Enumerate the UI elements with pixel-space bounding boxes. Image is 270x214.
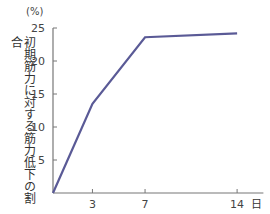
x-tick-label: 3 bbox=[89, 198, 96, 211]
line-chart: 5101520253714 日 bbox=[0, 0, 270, 214]
data-line bbox=[53, 33, 237, 193]
y-tick-label: 20 bbox=[31, 55, 45, 68]
x-axis-label: 日 bbox=[251, 198, 262, 211]
x-tick-label: 14 bbox=[230, 198, 244, 211]
axes bbox=[53, 28, 263, 193]
x-tick-label: 7 bbox=[142, 198, 149, 211]
y-tick-label: 15 bbox=[31, 88, 45, 101]
y-tick-label: 5 bbox=[38, 154, 45, 167]
ticks: 5101520253714 bbox=[31, 22, 244, 211]
y-tick-label: 10 bbox=[31, 121, 45, 134]
y-tick-label: 25 bbox=[31, 22, 45, 35]
